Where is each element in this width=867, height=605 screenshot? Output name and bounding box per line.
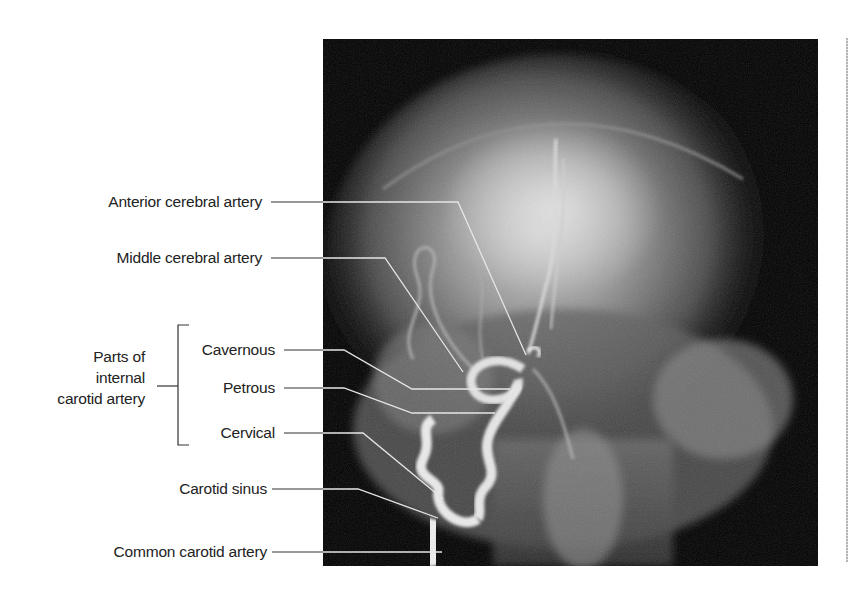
label-cavernous: Cavernous xyxy=(202,341,275,359)
group-label-line-1: Parts of xyxy=(35,346,145,367)
label-common-carotid-artery: Common carotid artery xyxy=(114,543,267,561)
group-label-line-3: carotid artery xyxy=(35,388,145,409)
bracket-internal-carotid-parts xyxy=(178,325,189,445)
xray-skull-rendering xyxy=(323,39,818,566)
label-petrous: Petrous xyxy=(223,379,275,397)
group-label-line-2: internal xyxy=(35,367,145,388)
label-middle-cerebral-artery: Middle cerebral artery xyxy=(117,249,263,267)
angiogram-image xyxy=(323,39,818,566)
page-edge-divider xyxy=(846,38,848,562)
label-anterior-cerebral-artery: Anterior cerebral artery xyxy=(108,193,262,211)
label-parts-of-internal-carotid-artery: Parts of internal carotid artery xyxy=(35,346,145,409)
label-cervical: Cervical xyxy=(221,424,275,442)
label-carotid-sinus: Carotid sinus xyxy=(179,480,267,498)
